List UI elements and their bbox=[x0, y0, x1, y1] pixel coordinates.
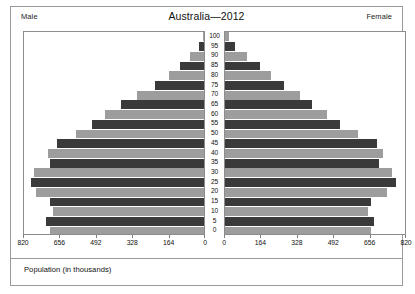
bar-row bbox=[24, 110, 204, 120]
male-xtick-label-656: 656 bbox=[54, 239, 65, 246]
male-x-axis: 8206564923281640 bbox=[23, 235, 205, 253]
female-xtick-mark-164 bbox=[260, 235, 261, 238]
age-tick-label-65: 65 bbox=[205, 99, 224, 109]
bar-row bbox=[24, 71, 204, 81]
female-bar-age-35 bbox=[225, 159, 379, 168]
female-bar-age-60 bbox=[225, 110, 327, 119]
bar-row bbox=[24, 119, 204, 129]
female-bar-age-85 bbox=[225, 62, 260, 71]
female-x-axis: 0164328492656820 bbox=[224, 235, 406, 253]
bar-row bbox=[225, 187, 405, 197]
age-tick-label-60: 60 bbox=[205, 109, 224, 119]
female-bar-age-90 bbox=[225, 52, 247, 61]
male-bar-age-55 bbox=[92, 120, 204, 129]
female-bars-panel bbox=[224, 31, 406, 235]
bar-row bbox=[225, 100, 405, 110]
bar-row bbox=[24, 187, 204, 197]
male-xtick-mark-820 bbox=[23, 235, 24, 238]
bar-row bbox=[225, 119, 405, 129]
male-xtick-label-820: 820 bbox=[17, 239, 28, 246]
male-bar-age-90 bbox=[190, 52, 204, 61]
bar-row bbox=[225, 90, 405, 100]
female-legend-label: Female bbox=[366, 12, 392, 21]
age-tick-label-95: 95 bbox=[205, 41, 224, 51]
age-tick-label-45: 45 bbox=[205, 138, 224, 148]
female-bar-rows bbox=[225, 32, 405, 234]
female-bar-age-15 bbox=[225, 198, 371, 207]
bar-row bbox=[24, 42, 204, 52]
chart-figure: Male Australia—2012 Female 1009590858075… bbox=[10, 6, 403, 286]
bar-row bbox=[24, 139, 204, 149]
male-bar-age-80 bbox=[169, 71, 204, 80]
female-bar-age-95 bbox=[225, 42, 235, 51]
male-xtick-mark-164 bbox=[169, 235, 170, 238]
bar-row bbox=[225, 149, 405, 159]
female-bar-age-0 bbox=[225, 227, 371, 235]
bar-row bbox=[225, 32, 405, 42]
bar-row bbox=[24, 168, 204, 178]
bar-row bbox=[24, 197, 204, 207]
male-bar-age-5 bbox=[46, 217, 204, 226]
bar-row bbox=[24, 178, 204, 188]
age-tick-label-40: 40 bbox=[205, 148, 224, 158]
female-xtick-label-656: 656 bbox=[364, 239, 375, 246]
axis-caption: Population (in thousands) bbox=[24, 265, 111, 274]
bar-row bbox=[24, 51, 204, 61]
bar-row bbox=[24, 32, 204, 42]
bar-row bbox=[225, 158, 405, 168]
age-tick-label-0: 0 bbox=[205, 225, 224, 235]
bar-row bbox=[225, 178, 405, 188]
female-bar-age-30 bbox=[225, 168, 392, 177]
bar-row bbox=[225, 226, 405, 235]
male-bar-age-75 bbox=[155, 81, 204, 90]
female-xtick-mark-656 bbox=[370, 235, 371, 238]
age-tick-label-85: 85 bbox=[205, 60, 224, 70]
female-bar-age-100 bbox=[225, 32, 229, 41]
bar-row bbox=[24, 217, 204, 227]
male-bar-age-45 bbox=[57, 139, 204, 148]
female-bar-age-5 bbox=[225, 217, 374, 226]
bar-row bbox=[24, 149, 204, 159]
male-xtick-mark-0 bbox=[204, 235, 205, 238]
male-bar-age-0 bbox=[50, 227, 204, 235]
female-bar-age-10 bbox=[225, 207, 368, 216]
female-xtick-label-0: 0 bbox=[222, 239, 226, 246]
bar-row bbox=[24, 81, 204, 91]
male-xtick-label-328: 328 bbox=[127, 239, 138, 246]
age-tick-label-20: 20 bbox=[205, 186, 224, 196]
bar-row bbox=[225, 42, 405, 52]
age-tick-label-75: 75 bbox=[205, 80, 224, 90]
male-bar-age-65 bbox=[121, 100, 204, 109]
male-xtick-label-164: 164 bbox=[163, 239, 174, 246]
male-bar-age-40 bbox=[48, 149, 204, 158]
female-xtick-mark-328 bbox=[297, 235, 298, 238]
female-xtick-mark-492 bbox=[333, 235, 334, 238]
male-xtick-label-492: 492 bbox=[90, 239, 101, 246]
bar-row bbox=[24, 207, 204, 217]
female-bar-age-40 bbox=[225, 149, 383, 158]
bar-row bbox=[24, 90, 204, 100]
bar-row bbox=[225, 168, 405, 178]
male-bars-panel bbox=[23, 31, 205, 235]
male-bar-age-30 bbox=[34, 168, 204, 177]
female-xtick-label-328: 328 bbox=[291, 239, 302, 246]
female-bar-age-50 bbox=[225, 130, 358, 139]
age-axis: 1009590858075706560555045403530252015105… bbox=[205, 31, 224, 235]
footer-divider bbox=[11, 258, 402, 259]
bar-row bbox=[225, 197, 405, 207]
male-bar-age-100 bbox=[203, 32, 204, 41]
female-bar-age-55 bbox=[225, 120, 340, 129]
chart-title: Australia—2012 bbox=[11, 10, 402, 22]
bar-row bbox=[225, 217, 405, 227]
male-xtick-mark-492 bbox=[96, 235, 97, 238]
female-bar-age-70 bbox=[225, 91, 300, 100]
age-tick-label-100: 100 bbox=[205, 31, 224, 41]
age-tick-label-15: 15 bbox=[205, 196, 224, 206]
bar-row bbox=[225, 71, 405, 81]
bar-row bbox=[24, 100, 204, 110]
bar-row bbox=[24, 129, 204, 139]
male-bar-age-35 bbox=[50, 159, 204, 168]
male-bar-age-25 bbox=[31, 178, 204, 187]
female-bar-age-25 bbox=[225, 178, 396, 187]
male-xtick-label-0: 0 bbox=[203, 239, 207, 246]
